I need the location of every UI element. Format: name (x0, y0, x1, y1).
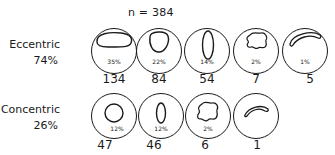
item-percent: 14% (200, 58, 214, 65)
eccentric-item-3 (185, 29, 230, 74)
item-percent: 12% (154, 125, 168, 132)
item-count: 6 (185, 138, 225, 152)
item-count: 46 (134, 138, 174, 152)
item-count: 5 (290, 72, 330, 86)
crescent-icon (245, 107, 269, 117)
item-percent: 1% (300, 58, 310, 65)
tall-oval-icon (157, 103, 166, 123)
item-count: 84 (139, 72, 179, 86)
circle-icon (105, 104, 123, 122)
eccentric-item-5 (283, 29, 328, 74)
item-percent: 2% (251, 58, 261, 65)
eccentric-item-2 (137, 29, 182, 74)
crescent-icon (290, 33, 321, 46)
tall-oval-icon (203, 31, 214, 59)
item-percent: 22% (152, 58, 166, 65)
concentric-item-4 (234, 94, 279, 139)
vessel-outline-icon (137, 29, 182, 74)
round-oval-icon (150, 32, 169, 52)
item-count: 1 (237, 138, 277, 152)
item-count: 7 (236, 72, 276, 86)
eccentric-item-1 (92, 29, 137, 74)
vessel-outline-icon (234, 94, 279, 139)
item-count: 134 (94, 72, 134, 86)
eccentric-item-4 (234, 29, 279, 74)
irregular-blob-icon (247, 33, 267, 49)
item-count: 54 (187, 72, 227, 86)
wide-oval-icon (97, 33, 132, 47)
irregular-blob-icon (198, 102, 218, 121)
vessel-outline-icon (185, 29, 230, 74)
item-percent: 12% (110, 125, 124, 132)
item-count: 47 (85, 138, 125, 152)
item-percent: 2% (203, 125, 213, 132)
vessel-outline-icon (234, 29, 279, 74)
item-percent: 35% (107, 58, 121, 65)
